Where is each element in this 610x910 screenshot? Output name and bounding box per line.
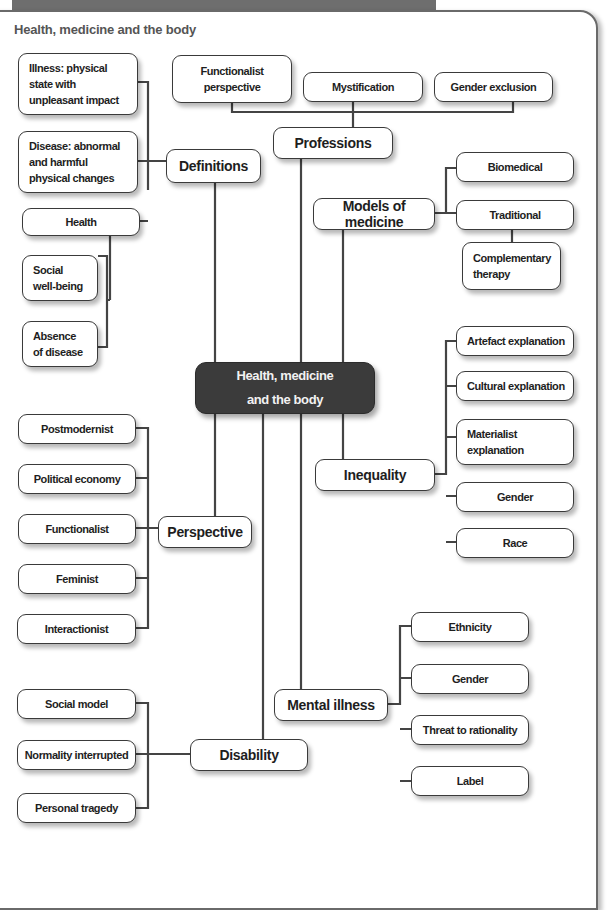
node-perspective-label: Perspective [167,524,242,540]
node-threat-to-rationality[interactable]: Threat to rationality [411,715,529,745]
node-gender-exclusion[interactable]: Gender exclusion [434,72,553,102]
node-interactionist[interactable]: Interactionist [17,614,136,644]
node-materialist-explanation-label: Materialist explanation [467,426,524,458]
node-postmodernist-label: Postmodernist [41,421,113,437]
node-artefact-explanation[interactable]: Artefact explanation [456,326,574,356]
node-absence-of-disease-label: Absence of disease [33,328,83,360]
node-social-well-being-label: Social well-being [33,262,83,294]
node-illness-label: Illness: physical state with unpleasant … [29,60,119,108]
node-health[interactable]: Health [22,208,140,236]
node-disability-label: Disability [219,747,278,763]
central-topic-label: Health, medicine and the body [237,364,334,412]
node-traditional[interactable]: Traditional [456,200,574,230]
node-complementary-therapy[interactable]: Complementary therapy [462,242,561,290]
node-cultural-explanation-label: Cultural explanation [467,378,565,394]
node-functionalist[interactable]: Functionalist [18,514,136,544]
node-social-well-being[interactable]: Social well-being [22,255,98,301]
node-inequality-gender-label: Gender [497,489,533,505]
node-social-model[interactable]: Social model [17,689,136,719]
node-models-of-medicine[interactable]: Models of medicine [313,198,435,230]
central-topic[interactable]: Health, medicine and the body [195,362,375,414]
node-feminist-label: Feminist [56,571,98,587]
node-personal-tragedy[interactable]: Personal tragedy [17,793,136,823]
node-gender-exclusion-label: Gender exclusion [451,79,537,95]
node-mental-gender-label: Gender [452,671,488,687]
node-biomedical[interactable]: Biomedical [456,152,574,182]
node-artefact-explanation-label: Artefact explanation [467,333,565,349]
node-feminist[interactable]: Feminist [18,564,136,594]
node-label-label: Label [457,773,484,789]
node-materialist-explanation[interactable]: Materialist explanation [456,419,574,465]
node-disease-label: Disease: abnormal and harmful physical c… [29,138,120,186]
node-mystification-label: Mystification [332,79,394,95]
node-race-label: Race [503,535,528,551]
node-political-economy-label: Political economy [34,471,121,487]
node-postmodernist[interactable]: Postmodernist [18,414,136,444]
node-mental-gender[interactable]: Gender [411,664,529,694]
node-threat-to-rationality-label: Threat to rationality [423,722,517,738]
node-illness[interactable]: Illness: physical state with unpleasant … [18,53,138,115]
node-professions-label: Professions [295,135,372,151]
node-definitions[interactable]: Definitions [166,149,261,183]
node-ethnicity-label: Ethnicity [449,619,492,635]
node-normality-interrupted[interactable]: Normality interrupted [17,740,136,770]
node-inequality[interactable]: Inequality [315,459,435,491]
node-professions[interactable]: Professions [273,127,393,159]
node-ethnicity[interactable]: Ethnicity [411,612,529,642]
node-functionalist-perspective[interactable]: Functionalist perspective [172,55,292,103]
node-inequality-label: Inequality [344,467,406,483]
node-health-label: Health [65,214,96,230]
node-disease[interactable]: Disease: abnormal and harmful physical c… [18,131,138,193]
node-social-model-label: Social model [45,696,108,712]
node-biomedical-label: Biomedical [488,159,543,175]
node-mystification[interactable]: Mystification [303,72,423,102]
node-functionalist-label: Functionalist [45,521,108,537]
node-race[interactable]: Race [456,528,574,558]
node-personal-tragedy-label: Personal tragedy [35,800,118,816]
node-label[interactable]: Label [411,766,529,796]
node-definitions-label: Definitions [179,158,248,174]
node-absence-of-disease[interactable]: Absence of disease [22,321,98,367]
node-disability[interactable]: Disability [190,739,308,771]
node-mental-illness[interactable]: Mental illness [274,689,388,721]
node-cultural-explanation[interactable]: Cultural explanation [456,371,574,401]
node-traditional-label: Traditional [489,207,540,223]
node-mental-illness-label: Mental illness [287,697,375,713]
node-models-of-medicine-label: Models of medicine [320,198,428,230]
node-normality-interrupted-label: Normality interrupted [25,747,128,763]
node-perspective[interactable]: Perspective [158,516,252,548]
node-inequality-gender[interactable]: Gender [456,482,574,512]
node-political-economy[interactable]: Political economy [18,464,136,494]
node-functionalist-perspective-label: Functionalist perspective [200,63,263,95]
node-interactionist-label: Interactionist [45,621,108,637]
node-complementary-therapy-label: Complementary therapy [473,250,551,282]
